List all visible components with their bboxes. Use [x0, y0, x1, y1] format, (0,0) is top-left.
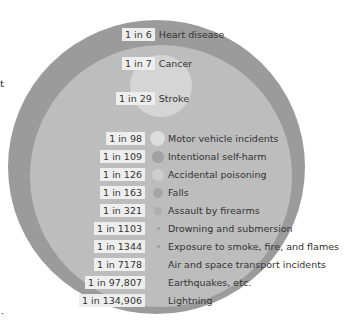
- legend-row-self-harm: 1 in 109 Intentional self-harm: [0, 150, 363, 163]
- cause-name: Lightning: [168, 294, 212, 307]
- cropped-text-fragment: t: [0, 78, 4, 89]
- cause-name: Air and space transport incidents: [168, 258, 326, 271]
- cause-name: Stroke: [155, 93, 189, 104]
- legend-row-earthquakes: 1 in 97,807 Earthquakes, etc.: [0, 276, 363, 289]
- odds-value: 1 in 163: [100, 186, 145, 199]
- stroke-label: 1 in 29Stroke: [116, 92, 189, 105]
- odds-value: 1 in 6: [122, 28, 155, 41]
- odds-value: 1 in 98: [106, 132, 145, 145]
- cause-name: Heart disease: [155, 29, 225, 40]
- odds-value: 1 in 1344: [94, 240, 145, 253]
- odds-value: 1 in 7178: [94, 258, 145, 271]
- legend-row-fire: 1 in 1344 Exposure to smoke, fire, and f…: [0, 240, 363, 253]
- cause-name: Accidental poisoning: [168, 168, 266, 181]
- legend-row-firearms: 1 in 321 Assault by firearms: [0, 204, 363, 217]
- odds-value: 1 in 7: [122, 57, 155, 70]
- falls-circle: [153, 188, 163, 198]
- cause-name: Exposure to smoke, fire, and flames: [168, 240, 339, 253]
- legend-row-falls: 1 in 163 Falls: [0, 186, 363, 199]
- odds-value: 1 in 1103: [94, 222, 145, 235]
- cause-name: Falls: [168, 186, 189, 199]
- poisoning-circle: [152, 169, 164, 181]
- motor-vehicle-circle: [150, 131, 165, 146]
- odds-value: 1 in 321: [100, 204, 145, 217]
- heart-disease-label: 1 in 6Heart disease: [122, 28, 224, 41]
- odds-of-dying-chart: t · 1 in 6Heart disease 1 in 7Cancer 1 i…: [0, 0, 363, 330]
- odds-value: 1 in 97,807: [85, 276, 145, 289]
- legend-row-drowning: 1 in 1103 Drowning and submersion: [0, 222, 363, 235]
- cause-name: Motor vehicle incidents: [168, 132, 278, 145]
- air-transport-circle: [157, 264, 159, 266]
- self-harm-circle: [152, 151, 164, 163]
- legend-row-motor-vehicle: 1 in 98 Motor vehicle incidents: [0, 132, 363, 145]
- cause-name: Drowning and submersion: [168, 222, 293, 235]
- cause-name: Earthquakes, etc.: [168, 276, 251, 289]
- cause-name: Assault by firearms: [168, 204, 260, 217]
- odds-value: 1 in 134,906: [79, 294, 145, 307]
- cropped-text-fragment: ·: [1, 308, 4, 319]
- earthquakes-circle: [157, 282, 159, 284]
- cancer-label: 1 in 7Cancer: [122, 57, 192, 70]
- cause-name: Cancer: [155, 58, 192, 69]
- cause-name: Intentional self-harm: [168, 150, 267, 163]
- odds-value: 1 in 29: [116, 92, 155, 105]
- drowning-circle: [157, 227, 160, 230]
- odds-value: 1 in 126: [100, 168, 145, 181]
- odds-value: 1 in 109: [100, 150, 145, 163]
- legend-row-air-transport: 1 in 7178 Air and space transport incide…: [0, 258, 363, 271]
- legend-row-poisoning: 1 in 126 Accidental poisoning: [0, 168, 363, 181]
- lightning-circle: [157, 300, 159, 302]
- legend-row-lightning: 1 in 134,906 Lightning: [0, 294, 363, 307]
- firearms-circle: [154, 207, 162, 215]
- fire-circle: [157, 245, 160, 248]
